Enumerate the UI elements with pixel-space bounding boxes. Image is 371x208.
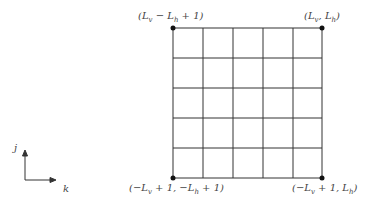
dot-top-right	[320, 26, 325, 31]
dot-bottom-left	[171, 176, 176, 181]
corner-label-bottom-left: (−Lv + 1, −Lh + 1)	[129, 182, 224, 196]
axis-label-k: k	[63, 183, 69, 194]
lattice-diagram	[0, 0, 371, 208]
corner-dots	[171, 26, 325, 181]
axis-label-j: j	[14, 142, 17, 153]
grid	[173, 28, 322, 178]
corner-label-bottom-right: (−Lv + 1, Lh)	[292, 182, 357, 196]
corner-label-top-left: (Lv − Lh + 1)	[138, 10, 203, 24]
axes-indicator	[23, 150, 57, 183]
dot-bottom-right	[320, 176, 325, 181]
corner-label-top-right: (Lv, Lh)	[304, 10, 340, 24]
dot-top-left	[171, 26, 176, 31]
